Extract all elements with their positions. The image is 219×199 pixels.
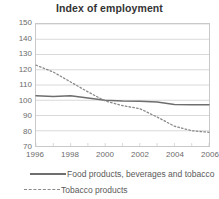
y-tick-label: 90 [8, 112, 32, 120]
y-tick-label: 140 [8, 35, 32, 43]
y-tick-label: 120 [8, 66, 32, 74]
chart-legend: Food products, beverages and tobacco Tob… [24, 167, 219, 199]
data-series-layer [36, 24, 209, 146]
plot-area [35, 23, 210, 147]
data-line-tobacco-products [36, 65, 209, 132]
y-tick-label: 110 [8, 81, 32, 89]
data-line-food-products [36, 96, 209, 105]
x-tick-label: 1996 [20, 151, 50, 159]
legend-line-solid-icon [30, 170, 66, 178]
legend-label-food-products: Food products, beverages and tobacco [67, 170, 214, 179]
legend-line-dotted-icon [24, 186, 60, 194]
x-tick-label: 2000 [90, 151, 120, 159]
legend-label-tobacco-products: Tobacco products [61, 186, 128, 195]
x-tick-label: 1998 [55, 151, 85, 159]
chart-figure: Index of employment 70809010011012013014… [0, 0, 219, 199]
x-tick-label: 2006 [195, 151, 219, 159]
chart-title: Index of employment [0, 2, 219, 15]
y-tick-label: 100 [8, 97, 32, 105]
y-tick-label: 130 [8, 50, 32, 58]
x-tick-label: 2002 [125, 151, 155, 159]
y-tick-label: 80 [8, 128, 32, 136]
legend-item-food-products: Food products, beverages and tobacco [30, 167, 214, 181]
legend-item-tobacco-products: Tobacco products [24, 183, 128, 197]
y-axis-tick-labels: 708090100110120130140150 [6, 23, 32, 147]
x-tick-label: 2004 [160, 151, 190, 159]
y-tick-label: 150 [8, 19, 32, 27]
x-axis-tick-labels: 199619982000200220042006 [35, 151, 210, 163]
